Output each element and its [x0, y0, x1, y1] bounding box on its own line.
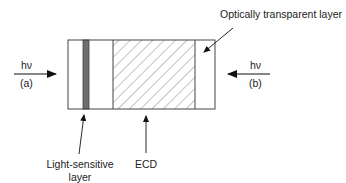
- tag-a-label: (a): [20, 77, 33, 89]
- callout-ecd: ECD: [135, 116, 158, 170]
- callout-optically-transparent: Optically transparent layer: [204, 8, 342, 52]
- optically-transparent-label: Optically transparent layer: [220, 8, 342, 20]
- hv-label-left: hν: [21, 59, 32, 71]
- tag-b-label: (b): [249, 77, 262, 89]
- hv-label-right: hν: [250, 59, 261, 71]
- light-sensitive-label-line1: Light-sensitive: [46, 158, 113, 170]
- leader-arrow-icon: [79, 115, 84, 154]
- light-sensitive-label-line2: layer: [69, 171, 92, 183]
- optically-transparent-layer: [195, 40, 215, 109]
- device-stack: [68, 40, 215, 109]
- illumination-left: hν (a): [14, 59, 56, 89]
- substrate-left-region: [68, 40, 113, 109]
- device-diagram: hν (a) hν (b) Optically transparent laye…: [0, 0, 346, 183]
- illumination-right: hν (b): [228, 59, 270, 89]
- light-sensitive-layer: [83, 40, 89, 109]
- ecd-layer: [113, 40, 195, 109]
- ecd-label: ECD: [135, 158, 158, 170]
- callout-light-sensitive: Light-sensitive layer: [46, 115, 113, 183]
